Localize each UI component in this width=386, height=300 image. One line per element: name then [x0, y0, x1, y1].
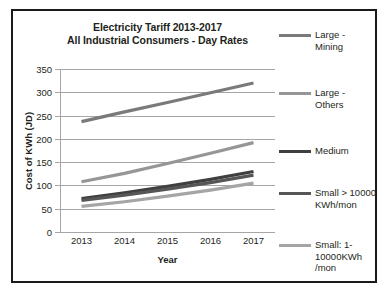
legend-swatch-icon	[279, 150, 311, 153]
legend-label: Small: 1-10000KWh /mon	[315, 239, 377, 274]
legend-item[interactable]: Small > 10000 KWh/mon	[279, 187, 377, 210]
legend-item[interactable]: Small: 1-10000KWh /mon	[279, 239, 377, 274]
y-axis-tick-label: 100	[36, 180, 52, 191]
y-axis-tick-label: 50	[41, 203, 52, 214]
legend-swatch-icon	[279, 34, 311, 37]
chart-title-line-1: Electricity Tariff 2013-2017	[45, 21, 270, 34]
y-axis-tick-label: 300	[36, 87, 52, 98]
chart-figure: Electricity Tariff 2013-2017 All Industr…	[11, 9, 377, 283]
legend-swatch-icon	[279, 244, 311, 247]
y-axis-tick-label: 200	[36, 133, 52, 144]
chart-title: Electricity Tariff 2013-2017 All Industr…	[45, 21, 270, 47]
series-line	[82, 83, 254, 122]
legend-label: Large - Others	[315, 87, 345, 110]
y-axis-tick-label: 150	[36, 157, 52, 168]
legend-item[interactable]: Large - Mining	[279, 29, 377, 52]
legend-item[interactable]: Medium	[279, 145, 377, 157]
chart-title-line-2: All Industrial Consumers - Day Rates	[45, 34, 270, 47]
x-axis-tick-label: 2016	[200, 235, 221, 246]
y-axis-tick-label: 0	[47, 227, 52, 238]
legend-label: Small > 10000 KWh/mon	[315, 187, 377, 210]
y-axis-tick	[55, 232, 60, 233]
x-axis-title: Year	[60, 254, 275, 265]
x-axis-tick-label: 2015	[157, 235, 178, 246]
y-axis-title: Cost of KWh (JD)	[21, 69, 35, 232]
series-lines	[60, 69, 275, 232]
x-axis-tick-label: 2013	[71, 235, 92, 246]
x-axis-tick-label: 2014	[114, 235, 135, 246]
y-axis-title-label: Cost of KWh (JD)	[23, 111, 34, 189]
y-axis-tick-label: 350	[36, 64, 52, 75]
y-axis-tick-label: 250	[36, 110, 52, 121]
chart-legend: Large - MiningLarge - OthersMediumSmall …	[279, 25, 377, 275]
plot-area: 050100150200250300350 201320142015201620…	[60, 69, 275, 232]
legend-label: Medium	[315, 145, 349, 157]
gridline	[60, 232, 275, 233]
x-axis-tick-label: 2017	[243, 235, 264, 246]
legend-label: Large - Mining	[315, 29, 345, 52]
legend-swatch-icon	[279, 192, 311, 195]
legend-swatch-icon	[279, 92, 311, 95]
legend-item[interactable]: Large - Others	[279, 87, 377, 110]
